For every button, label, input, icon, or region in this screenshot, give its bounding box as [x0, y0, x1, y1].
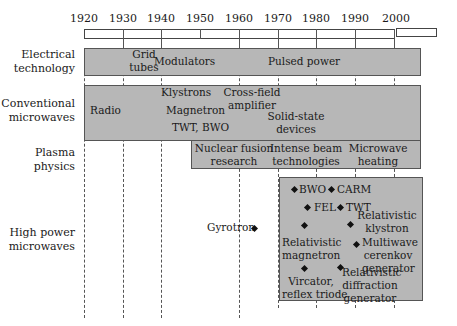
microwave-heating-label: Microwave heating	[345, 142, 411, 168]
carm-label: CARM	[337, 183, 371, 196]
label-line: Electrical	[14, 48, 75, 62]
label-line: reflex triode	[282, 288, 340, 301]
gyrotron-label: Gyrotron	[207, 221, 255, 234]
label-line: generator	[342, 292, 398, 305]
fel-label: FEL	[314, 201, 336, 214]
axis-bar-extension	[396, 28, 437, 37]
label-line: Conventional	[1, 97, 75, 111]
label-line: microwaves	[1, 111, 75, 125]
year-label: 1920	[70, 12, 98, 25]
year-label: 1980	[302, 12, 330, 25]
label-line: microwaves	[9, 240, 75, 254]
relativistic-klystron-label: Relativistic klystron	[356, 209, 418, 235]
label-line: Plasma	[34, 146, 75, 160]
label-line: technologies	[268, 155, 344, 168]
klystrons-label: Klystrons	[161, 86, 211, 99]
year-label: 2000	[382, 12, 410, 25]
year-label: 1930	[109, 12, 137, 25]
label-line: Cross-field	[222, 86, 282, 99]
tick	[316, 29, 317, 49]
tick	[161, 29, 162, 49]
label-line: Vircator,	[282, 275, 340, 288]
tick	[355, 29, 356, 49]
year-label: 1990	[341, 12, 369, 25]
label-line: Intense beam	[268, 142, 344, 155]
tick	[200, 29, 201, 39]
label-line: Solid-state	[266, 110, 326, 123]
tick	[239, 29, 240, 49]
bwo-label: BWO	[299, 183, 326, 196]
label-line: diffraction	[342, 279, 398, 292]
magnetron-label: Magnetron	[166, 104, 225, 117]
vircator-reflex-triode-label: Vircator, reflex triode	[282, 275, 340, 301]
row-label-plasma: Plasma physics	[34, 146, 75, 174]
radio-label: Radio	[90, 104, 121, 117]
label-line: technology	[14, 62, 75, 76]
year-label: 1970	[264, 12, 292, 25]
cross-field-amplifier-label: Cross-field amplifier	[222, 86, 282, 112]
year-label: 1940	[147, 12, 175, 25]
pulsed-power-label: Pulsed power	[268, 55, 340, 68]
label-line: Multiwave	[362, 236, 414, 249]
tick	[278, 29, 279, 49]
year-label: 1960	[225, 12, 253, 25]
solid-state-devices-label: Solid-state devices	[266, 110, 326, 136]
label-line: magnetron	[282, 249, 338, 262]
relativistic-magnetron-label: Relativistic magnetron	[282, 236, 338, 262]
label-line: research	[193, 155, 275, 168]
tick	[123, 29, 124, 49]
tick	[394, 29, 395, 49]
label-line: Relativistic	[282, 236, 338, 249]
relativistic-diffraction-generator-label: Relativistic diffraction generator	[342, 266, 398, 305]
label-line: Relativistic	[356, 209, 418, 222]
row-label-conventional: Conventional microwaves	[1, 97, 75, 125]
label-line: High power	[9, 226, 75, 240]
year-label: 1950	[186, 12, 214, 25]
intense-beam-technologies-label: Intense beam technologies	[268, 142, 344, 168]
label-line: cerenkov	[362, 249, 414, 262]
label-line: klystron	[356, 222, 418, 235]
label-line: physics	[34, 160, 75, 174]
label-line: Microwave	[345, 142, 411, 155]
twt-bwo-label: TWT, BWO	[172, 121, 229, 134]
row-label-electrical: Electrical technology	[14, 48, 75, 76]
label-line: heating	[345, 155, 411, 168]
label-line: Nuclear fusion	[193, 142, 275, 155]
row-label-hpm: High power microwaves	[9, 226, 75, 254]
nuclear-fusion-research-label: Nuclear fusion research	[193, 142, 275, 168]
modulators-label: Modulators	[154, 55, 215, 68]
label-line: Relativistic	[342, 266, 398, 279]
label-line: devices	[266, 123, 326, 136]
